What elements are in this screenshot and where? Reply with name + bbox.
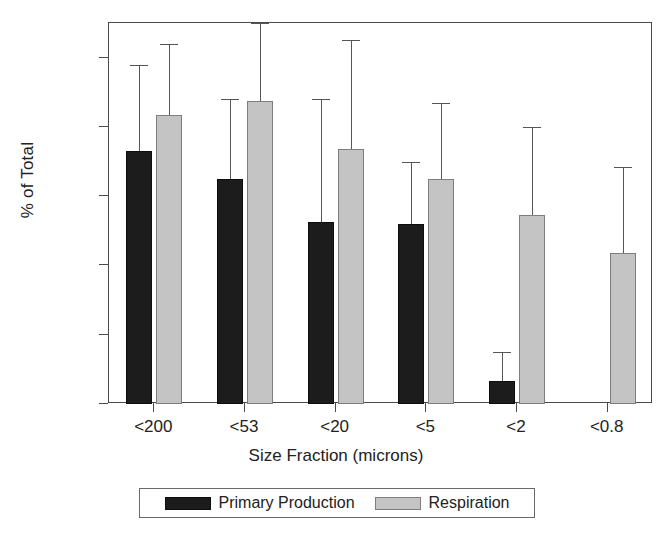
legend-item-primary-production: Primary Production: [165, 494, 355, 512]
bar-primary-production: [217, 179, 243, 404]
y-tick-mark: [99, 403, 108, 404]
legend-item-respiration: Respiration: [375, 494, 510, 512]
bar-respiration: [247, 101, 273, 404]
error-bar-stem: [351, 40, 352, 149]
bar-respiration: [610, 253, 636, 404]
x-tick-mark: [425, 403, 426, 412]
error-bar-stem: [139, 65, 140, 152]
error-bar-cap: [130, 65, 148, 66]
legend-label-respiration: Respiration: [429, 494, 510, 512]
bar-primary-production: [489, 381, 515, 404]
x-tick-mark: [516, 403, 517, 412]
legend-swatch-icon-respiration: [375, 497, 421, 510]
x-tick-mark: [335, 403, 336, 412]
error-bar-cap: [160, 44, 178, 45]
error-bar-stem: [411, 162, 412, 224]
chart-legend: Primary Production Respiration: [139, 488, 535, 518]
bar-respiration: [519, 215, 545, 404]
x-axis-title: Size Fraction (microns): [0, 446, 672, 466]
error-bar-stem: [532, 127, 533, 215]
y-tick-mark: [99, 334, 108, 335]
error-bar-cap: [312, 99, 330, 100]
x-tick-mark: [607, 403, 608, 412]
error-bar-cap: [614, 167, 632, 168]
error-bar-stem: [623, 167, 624, 254]
error-bar-cap: [493, 352, 511, 353]
y-tick-mark: [99, 126, 108, 127]
plot-area: [108, 22, 652, 403]
x-tick-label: <20: [290, 417, 380, 437]
x-tick-label: <0.8: [562, 417, 652, 437]
bar-primary-production: [308, 222, 334, 404]
x-tick-label: <5: [380, 417, 470, 437]
error-bar-stem: [230, 99, 231, 179]
x-tick-label: <2: [471, 417, 561, 437]
legend-label-primary-production: Primary Production: [219, 494, 355, 512]
error-bar-cap: [402, 162, 420, 163]
y-tick-mark: [99, 195, 108, 196]
y-tick-mark: [99, 264, 108, 265]
y-axis-title: % of Total: [18, 90, 38, 270]
error-bar-cap: [342, 40, 360, 41]
error-bar-stem: [169, 44, 170, 115]
error-bar-cap: [251, 23, 269, 24]
y-tick-mark: [99, 57, 108, 58]
x-tick-mark: [244, 403, 245, 412]
x-tick-label: <53: [199, 417, 289, 437]
legend-swatch-icon-primary-production: [165, 497, 211, 510]
error-bar-stem: [441, 103, 442, 179]
error-bar-cap: [221, 99, 239, 100]
bar-primary-production: [398, 224, 424, 404]
error-bar-stem: [321, 99, 322, 222]
x-tick-mark: [153, 403, 154, 412]
x-tick-label: <200: [108, 417, 198, 437]
error-bar-cap: [523, 127, 541, 128]
error-bar-cap: [432, 103, 450, 104]
bar-respiration: [156, 115, 182, 404]
bar-respiration: [428, 179, 454, 404]
error-bar-stem: [260, 23, 261, 101]
bar-respiration: [338, 149, 364, 404]
bar-primary-production: [126, 151, 152, 404]
error-bar-stem: [502, 352, 503, 381]
bar-chart-figure: % of Total 020406080100 <200<53<20<5<2<0…: [0, 0, 672, 536]
